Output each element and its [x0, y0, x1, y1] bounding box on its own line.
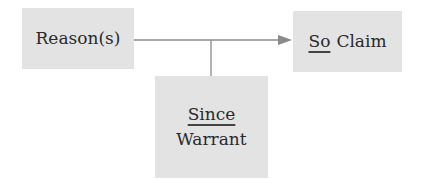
claim-keyword: So — [308, 29, 330, 54]
warrant-keyword: Since — [188, 102, 236, 127]
reason-box: Reason(s) — [22, 8, 134, 69]
claim-box: So Claim — [293, 11, 402, 72]
arrowhead-icon — [278, 35, 292, 45]
reason-label: Reason(s) — [36, 26, 121, 51]
warrant-box: Since Warrant — [155, 76, 268, 178]
claim-label: Claim — [336, 29, 386, 54]
warrant-label: Warrant — [176, 127, 246, 152]
